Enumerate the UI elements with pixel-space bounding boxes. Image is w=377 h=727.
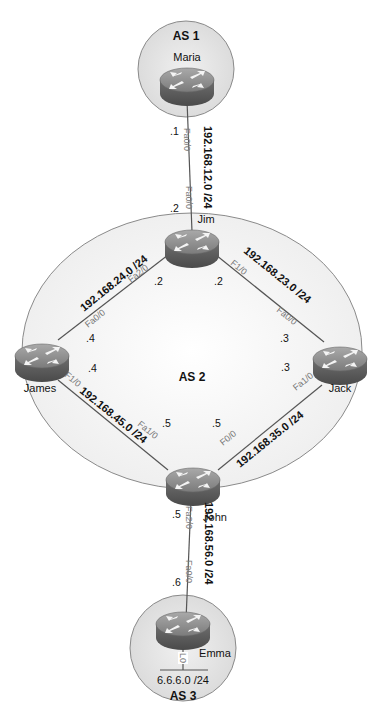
ip-jack-23: .3: [280, 332, 289, 344]
ip-james-45: .4: [88, 362, 97, 374]
router-icon-emma[interactable]: [156, 612, 210, 650]
router-name-maria: Maria: [173, 51, 201, 63]
ip-james-24: .4: [86, 332, 95, 344]
router-icon-john[interactable]: [166, 468, 220, 506]
router-icon-maria[interactable]: [160, 68, 214, 106]
loopback-network-label: 6.6.6.0 /24: [157, 674, 209, 686]
intf-john-fa2-0: Fa2/0: [184, 506, 194, 529]
ip-john-35: .5: [212, 417, 221, 429]
ip-jim-23: .2: [214, 275, 223, 287]
as3-label: AS 3: [170, 689, 197, 703]
intf-emma-fa0-0: Fa0/0: [184, 560, 194, 583]
router-icon-jack[interactable]: [313, 347, 367, 385]
ip-maria: .1: [170, 125, 179, 137]
intf-maria-fa0-0: Fa0/0: [182, 128, 192, 151]
ip-jack-35: .3: [281, 361, 290, 373]
intf-jim-fa0-0: Fa0/0: [184, 186, 194, 209]
as1-label: AS 1: [173, 29, 200, 43]
topology-diagram: AS 1 AS 2 AS 3 Maria Jim James Jack John…: [0, 0, 377, 727]
router-icon-james[interactable]: [15, 344, 69, 382]
ip-jim-12: .2: [170, 202, 179, 214]
router-name-emma: Emma: [199, 647, 232, 659]
intf-emma-l0: L0: [178, 653, 188, 663]
ip-emma-56: .6: [172, 576, 181, 588]
router-icon-jim[interactable]: [165, 230, 219, 268]
ip-jim-24: .2: [154, 275, 163, 287]
ip-john-56: .5: [172, 508, 181, 520]
router-name-jim: Jim: [197, 213, 214, 225]
ip-john-45: .5: [162, 417, 171, 429]
link-maria-jim: [187, 100, 192, 232]
network-label-12: 192.168.12.0 /24: [202, 126, 214, 209]
network-label-56: 192.168.56.0 /24: [203, 502, 215, 585]
as2-label: AS 2: [179, 370, 206, 384]
router-name-jack: Jack: [329, 382, 352, 394]
router-name-james: James: [24, 382, 57, 394]
